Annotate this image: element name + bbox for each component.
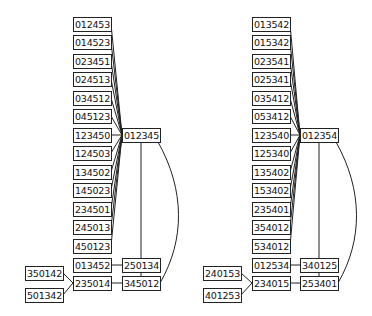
node-leaf: 534012 [252,239,291,254]
node-leaf: 025341 [252,72,291,87]
node-leaf: 124503 [73,146,112,161]
node-leaf: 125340 [252,146,291,161]
node-leaf: 234501 [73,202,112,217]
node-leaf: 123540 [252,128,291,143]
node-bottom-left: 235014 [73,276,112,291]
node-leaf: 023541 [252,54,291,69]
node-leaf: 034512 [73,91,112,106]
node-far-left-bottom: 501342 [25,288,64,303]
node-leaf: 134502 [73,165,112,180]
node-leaf: 012453 [73,17,112,32]
node-leaf: 053412 [252,109,291,124]
node-far-left-bottom: 401253 [203,288,242,303]
node-bottom-right: 345012 [122,276,161,291]
node-leaf: 035412 [252,91,291,106]
node-leaf: 153402 [252,183,291,198]
node-leaf: 013542 [252,17,291,32]
node-bottom-right: 253401 [300,276,339,291]
node-far-left-top: 240153 [203,266,242,281]
node-leaf: 235401 [252,202,291,217]
node-leaf: 123450 [73,128,112,143]
node-leaf: 023451 [73,54,112,69]
node-leaf: 015342 [252,35,291,50]
node-leaf: 245013 [73,220,112,235]
node-hub: 012345 [122,128,161,143]
node-lower-left: 012534 [252,258,291,273]
node-lower-right: 340125 [300,258,339,273]
node-leaf: 135402 [252,165,291,180]
node-lower-right: 250134 [122,258,161,273]
node-leaf: 024513 [73,72,112,87]
node-far-left-top: 350142 [25,266,64,281]
node-leaf: 145023 [73,183,112,198]
node-hub: 012354 [300,128,339,143]
node-bottom-left: 234015 [252,276,291,291]
node-leaf: 354012 [252,220,291,235]
node-leaf: 045123 [73,109,112,124]
node-lower-left: 013452 [73,258,112,273]
node-leaf: 014523 [73,35,112,50]
node-leaf: 450123 [73,239,112,254]
